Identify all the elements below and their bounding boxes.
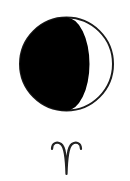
moon-phase-figure: Moon phase bbox=[0, 0, 130, 130]
zodiac-sign-figure: ♈ bbox=[0, 130, 130, 181]
moon-phase-icon bbox=[0, 0, 130, 130]
moon-shadow bbox=[20, 18, 89, 111]
aries-icon bbox=[0, 130, 130, 181]
